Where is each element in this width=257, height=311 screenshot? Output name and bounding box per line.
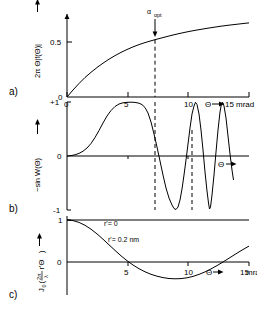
panel-c-y-title-numerator: 2π <box>36 273 42 280</box>
panel-c-y-title-arrowhead <box>37 233 42 239</box>
panel-c-xlabel-10: 10 <box>184 268 193 277</box>
panel-a-xlabel-15: 15 <box>225 100 234 109</box>
panel-c-y-title-J: J <box>37 288 46 292</box>
panel-c-y-title-close-paren: ) <box>37 250 46 253</box>
panel-c-ylabel-0: 0 <box>57 258 62 267</box>
alpha-opt-subscript: opt <box>154 12 162 18</box>
panel-c-curve-r02 <box>67 220 249 279</box>
panel-a-xunit: mrad <box>236 100 254 109</box>
panel-a-xlabel-10: 10 <box>184 100 193 109</box>
panel-a-y-axis-arrow <box>35 0 40 12</box>
panel-b-y-axis-title: −sin W(Θ) <box>33 158 42 192</box>
panel-c-xlabel-5: 5 <box>124 268 129 277</box>
panel-c: r'= 0 r'= 0.2 nm 1 0 5 10 15 mrad Θ J 0 … <box>9 216 257 300</box>
panel-c-y-title-denominator: λ <box>43 275 49 278</box>
figure-container: α opt 0.5 0 2π Θ|f(Θ)| 0 5 10 15 mrad Θ … <box>0 0 257 311</box>
alpha-opt-label: α <box>147 8 151 15</box>
panel-a-curve <box>67 23 249 97</box>
panel-c-legend-r02: r'= 0.2 nm <box>108 236 139 243</box>
panel-a-theta-symbol: Θ <box>205 100 211 109</box>
panel-c-ylabel-1: 1 <box>58 216 63 225</box>
panel-b-theta-symbol: Θ <box>218 160 224 169</box>
panel-a-ylabel-05: 0.5 <box>50 38 62 47</box>
panel-a: α opt 0.5 0 2π Θ|f(Θ)| 0 5 10 15 mrad Θ … <box>9 0 254 109</box>
panel-b-id: b) <box>9 203 18 214</box>
panel-b-ylabel-p1: +1 <box>50 98 60 107</box>
panel-a-y-arrowhead <box>65 14 70 19</box>
panel-b: +1 0 -1 −sin W(Θ) Θ b) <box>9 98 249 215</box>
panel-b-ylabel-0: 0 <box>57 152 62 161</box>
panel-c-xunit: mrad <box>246 268 257 277</box>
panel-c-y-title-J-sub: 0 <box>41 284 47 287</box>
panel-c-id: c) <box>9 289 17 300</box>
panel-c-y-axis-title: J 0 ( 2π λ r'Θ ) <box>36 233 50 292</box>
panel-b-y-axis-arrow <box>35 119 40 134</box>
panel-a-id: a) <box>9 86 18 97</box>
panel-a-y-axis-title: 2π Θ|f(Θ)| <box>33 44 42 78</box>
panel-b-ylabel-m1: -1 <box>53 206 61 215</box>
panel-c-theta-arrowhead <box>218 270 224 275</box>
panel-b-theta-arrowhead <box>231 162 237 167</box>
panel-a-xlabel-5: 5 <box>124 100 129 109</box>
panel-a-alpha-opt-arrowhead <box>153 32 158 38</box>
panel-c-theta-symbol: Θ <box>206 268 212 277</box>
three-panel-figure: α opt 0.5 0 2π Θ|f(Θ)| 0 5 10 15 mrad Θ … <box>0 0 257 311</box>
panel-c-legend-r0: r'= 0 <box>104 220 118 227</box>
panel-c-y-title-tail: r'Θ <box>37 260 46 270</box>
